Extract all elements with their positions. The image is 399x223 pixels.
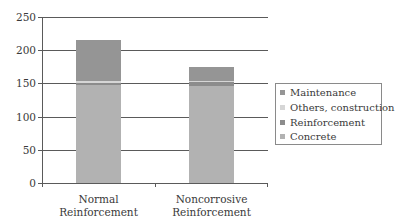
y-tick-mark xyxy=(38,150,42,151)
legend-item-concrete: Concrete xyxy=(280,131,336,143)
legend-item-maintenance: Maintenance xyxy=(280,87,356,99)
legend-item-reinforcement: Reinforcement xyxy=(280,117,365,129)
bar-segment-maintenance xyxy=(189,67,234,80)
bar-segment-others-construction xyxy=(76,81,121,84)
x-label-line: Normal xyxy=(42,193,155,206)
bar-noncorrosive-reinforcement xyxy=(189,67,234,183)
y-tick-100: 100 xyxy=(6,112,36,122)
legend-swatch-icon xyxy=(280,90,285,95)
y-tick-200: 200 xyxy=(6,45,36,55)
legend-label: Reinforcement xyxy=(290,117,365,128)
x-label-normal: Normal Reinforcement xyxy=(42,193,155,219)
y-tick-mark xyxy=(38,50,42,51)
legend-label: Maintenance xyxy=(290,87,356,98)
x-label-line: Reinforcement xyxy=(42,206,155,219)
bar-segment-concrete xyxy=(189,86,234,183)
y-tick-250: 250 xyxy=(6,12,36,22)
y-tick-150: 150 xyxy=(6,78,36,88)
y-axis-line xyxy=(42,17,43,184)
bar-normal-reinforcement xyxy=(76,40,121,183)
bar-segment-reinforcement xyxy=(189,81,234,86)
y-tick-mark xyxy=(38,17,42,18)
legend-swatch-icon xyxy=(280,134,285,139)
bar-segment-maintenance xyxy=(76,40,121,81)
legend-swatch-icon xyxy=(280,105,285,110)
legend-label: Concrete xyxy=(290,131,336,142)
x-tick-mark xyxy=(42,183,43,187)
x-label-line: Noncorrosive xyxy=(155,193,268,206)
legend-label: Others, construction xyxy=(290,102,395,113)
x-label-noncorrosive: Noncorrosive Reinforcement xyxy=(155,193,268,219)
y-tick-50: 50 xyxy=(6,145,36,155)
y-tick-mark xyxy=(38,83,42,84)
gridline xyxy=(42,17,268,18)
y-tick-0: 0 xyxy=(6,178,36,188)
y-tick-mark xyxy=(38,117,42,118)
legend-item-others: Others, construction xyxy=(280,102,395,114)
legend: Maintenance Others, construction Reinfor… xyxy=(275,83,382,145)
bar-segment-others-construction xyxy=(189,81,234,82)
x-label-line: Reinforcement xyxy=(155,206,268,219)
stacked-bar-chart: 250 200 150 100 50 0 Normal Reinforcemen… xyxy=(0,0,399,223)
legend-swatch-icon xyxy=(280,120,285,125)
x-tick-mark xyxy=(267,183,268,187)
x-tick-mark xyxy=(155,183,156,187)
bar-segment-concrete xyxy=(76,85,121,183)
bar-segment-reinforcement xyxy=(76,83,121,85)
